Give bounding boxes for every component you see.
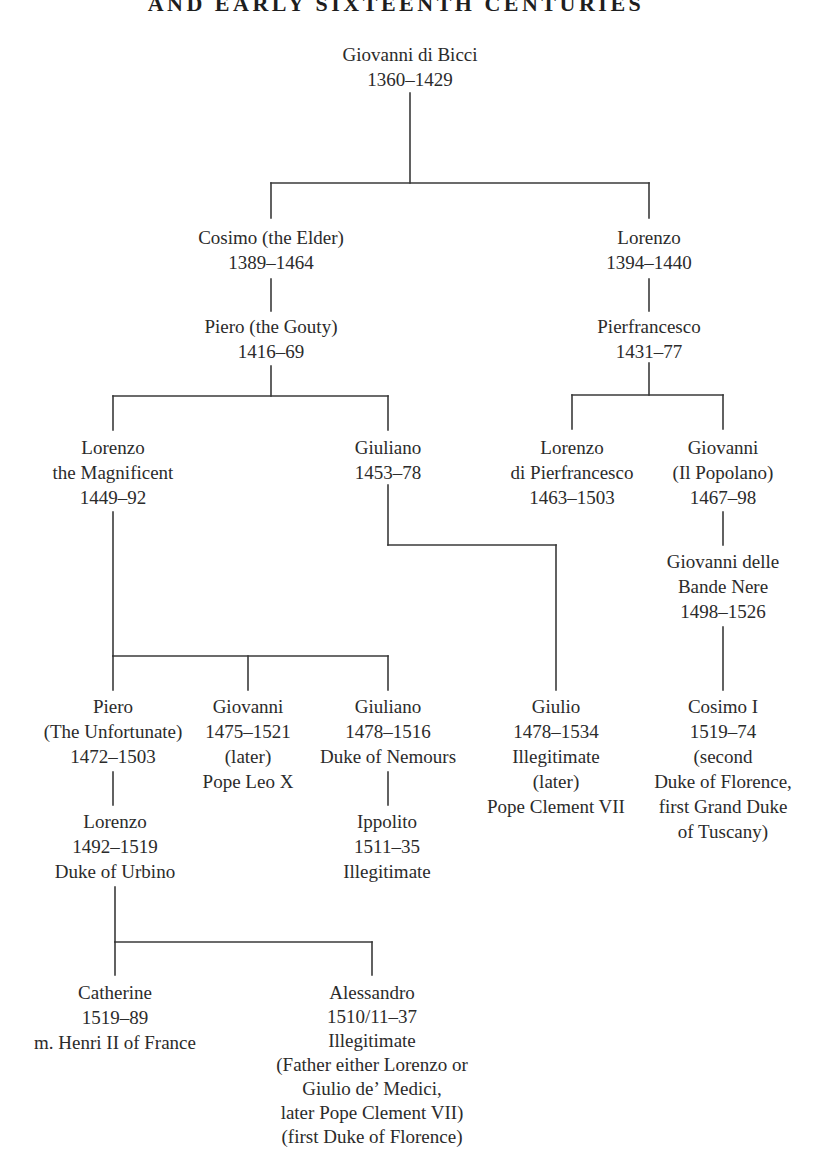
person-dates: 1467–98 [573,485,823,510]
person-dates: 1431–77 [499,339,799,364]
person-name: Alessandro [222,981,522,1005]
person-title: (second [573,744,823,769]
person-note: Illegitimate [222,1029,522,1053]
person-title: first Grand Duke [573,794,823,819]
person-pierfrancesco: Pierfrancesco 1431–77 [499,314,799,364]
person-name: Lorenzo [0,809,265,834]
person-giovanni-il-popolano: Giovanni (Il Popolano) 1467–98 [573,435,823,510]
person-lorenzo-the-magnificent: Lorenzo the Magnificent 1449–92 [0,435,263,510]
person-epithet: the Magnificent [0,460,263,485]
person-name-cont: Bande Nere [573,574,823,599]
person-title: Duke of Florence, [573,769,823,794]
person-giovanni-di-bicci: Giovanni di Bicci 1360–1429 [260,42,560,92]
person-cosimo-the-elder: Cosimo (the Elder) 1389–1464 [121,225,421,275]
person-piero-the-gouty: Piero (the Gouty) 1416–69 [121,314,421,364]
person-title: Duke of Urbino [0,859,265,884]
person-ippolito: Ippolito 1511–35 Illegitimate [237,809,537,884]
person-dates: 1511–35 [237,834,537,859]
person-name: Piero (the Gouty) [121,314,421,339]
person-note: Giulio de’ Medici, [222,1077,522,1101]
person-dates: 1394–1440 [499,250,799,275]
person-title: Pope Leo X [98,769,398,794]
person-epithet: (Il Popolano) [573,460,823,485]
person-note: (Father either Lorenzo or [222,1053,522,1077]
person-note: Illegitimate [237,859,537,884]
person-name: Giovanni [573,435,823,460]
person-dates: 1498–1526 [573,599,823,624]
person-note: later Pope Clement VII) [222,1101,522,1125]
person-name: Cosimo (the Elder) [121,225,421,250]
person-name: Ippolito [237,809,537,834]
person-name: Cosimo I [573,694,823,719]
person-dates: 1510/11–37 [222,1005,522,1029]
person-title: (first Duke of Florence) [222,1125,522,1149]
person-giovanni-delle-bande-nere: Giovanni delle Bande Nere 1498–1526 [573,549,823,624]
person-alessandro: Alessandro 1510/11–37 Illegitimate (Fath… [222,981,522,1149]
person-cosimo-i: Cosimo I 1519–74 (second Duke of Florenc… [573,694,823,844]
person-dates: 1389–1464 [121,250,421,275]
person-dates: 1449–92 [0,485,263,510]
person-dates: 1360–1429 [260,67,560,92]
person-name: Giovanni di Bicci [260,42,560,67]
person-title: of Tuscany) [573,819,823,844]
person-name: Pierfrancesco [499,314,799,339]
person-dates: 1416–69 [121,339,421,364]
person-lorenzo-duke-of-urbino: Lorenzo 1492–1519 Duke of Urbino [0,809,265,884]
person-name: Giovanni delle [573,549,823,574]
person-dates: 1492–1519 [0,834,265,859]
person-lorenzo-1394: Lorenzo 1394–1440 [499,225,799,275]
person-dates: 1519–74 [573,719,823,744]
person-name: Lorenzo [0,435,263,460]
person-name: Lorenzo [499,225,799,250]
